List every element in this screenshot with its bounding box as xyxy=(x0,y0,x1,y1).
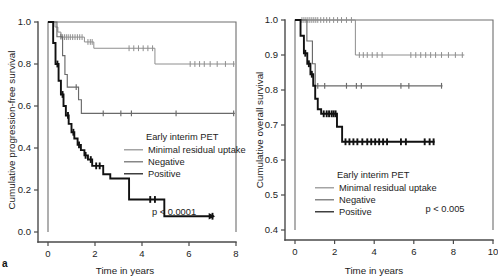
pfs-curve-pos xyxy=(48,22,214,216)
pfs-p-value: p < 0.0001 xyxy=(152,207,196,217)
os-legend-title: Early interim PET xyxy=(337,170,410,180)
os-curve-mru xyxy=(295,20,464,55)
pfs-legend-label-mru: Minimal residual uptake xyxy=(148,145,246,155)
pfs-curve-mru xyxy=(48,22,235,64)
os-y-axis-title: Cumulative overall survival xyxy=(254,72,265,189)
os-y-tick-label: 0.9 xyxy=(265,49,278,60)
pfs-curves xyxy=(48,22,235,220)
os-x-tick-label: 4 xyxy=(372,246,377,257)
os-x-tick-label: 0 xyxy=(292,246,297,257)
os-y-tick-label: 0.4 xyxy=(265,224,278,235)
pfs-x-tick-label: 6 xyxy=(186,248,191,259)
os-y-tick-label: 0.6 xyxy=(265,154,278,165)
os-legend-label-pos: Positive xyxy=(339,207,372,217)
pfs-y-tick-label: 0.4 xyxy=(18,142,31,153)
os-x-tick-label: 6 xyxy=(411,246,416,257)
os-legend: Early interim PETMinimal residual uptake… xyxy=(315,170,437,217)
pfs-curve-neg xyxy=(48,22,235,113)
pfs-y-axis-title: Cumulative progression-free survival xyxy=(6,51,17,210)
os-x-tick-label: 10 xyxy=(488,246,498,257)
os-p-value: p < 0.005 xyxy=(425,204,464,214)
os-y-tick-label: 0.7 xyxy=(265,119,278,130)
os-plot: 0.40.50.60.70.80.91.0 0246810 Time in ye… xyxy=(249,0,498,280)
pfs-y-axis-ticks: 0.00.20.40.60.81.0 xyxy=(18,16,38,237)
os-y-tick-label: 0.8 xyxy=(265,84,278,95)
pfs-plot-box xyxy=(48,22,236,232)
pfs-y-tick-label: 1.0 xyxy=(18,16,31,27)
pfs-x-axis-ticks: 02468 xyxy=(45,242,238,259)
panel-letter-a: a xyxy=(2,258,8,269)
pfs-legend-label-neg: Negative xyxy=(148,157,185,167)
os-y-tick-label: 0.5 xyxy=(265,189,278,200)
survival-curve-figure: 0.00.20.40.60.81.0 02468 Time in years C… xyxy=(0,0,498,280)
os-curves xyxy=(295,17,464,145)
os-y-axis-ticks: 0.40.50.60.70.80.91.0 xyxy=(265,14,285,235)
os-legend-label-mru: Minimal residual uptake xyxy=(339,183,437,193)
pfs-legend-label-pos: Positive xyxy=(148,169,181,179)
os-x-tick-label: 2 xyxy=(332,246,337,257)
pfs-y-tick-label: 0.8 xyxy=(18,58,31,69)
pfs-x-tick-label: 2 xyxy=(92,248,97,259)
pfs-x-axis-title: Time in years xyxy=(96,265,155,276)
os-x-axis-ticks: 0246810 xyxy=(292,240,498,257)
pfs-plot: 0.00.20.40.60.81.0 02468 Time in years C… xyxy=(0,0,250,280)
pfs-y-tick-label: 0.2 xyxy=(18,184,31,195)
panel-overall-survival: 0.40.50.60.70.80.91.0 0246810 Time in ye… xyxy=(249,0,498,280)
os-y-tick-label: 1.0 xyxy=(265,14,278,25)
os-legend-label-neg: Negative xyxy=(339,195,376,205)
pfs-x-tick-label: 4 xyxy=(139,248,144,259)
panel-progression-free-survival: 0.00.20.40.60.81.0 02468 Time in years C… xyxy=(0,0,250,280)
os-curve-pos xyxy=(295,20,435,142)
pfs-x-tick-label: 8 xyxy=(233,248,238,259)
os-x-axis-title: Time in years xyxy=(345,265,404,276)
os-plot-box xyxy=(295,20,493,230)
pfs-y-tick-label: 0.0 xyxy=(18,226,31,237)
pfs-x-tick-label: 0 xyxy=(45,248,50,259)
pfs-legend: Early interim PETMinimal residual uptake… xyxy=(124,132,246,179)
os-x-tick-label: 8 xyxy=(451,246,456,257)
pfs-y-tick-label: 0.6 xyxy=(18,100,31,111)
pfs-legend-title: Early interim PET xyxy=(146,132,219,142)
